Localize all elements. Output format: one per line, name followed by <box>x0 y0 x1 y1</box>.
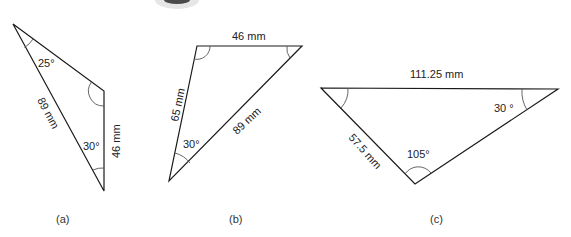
angle-label-a-30: 30° <box>83 140 100 152</box>
angle-arc-c-left <box>341 88 348 108</box>
angle-label-c-30: 30 ° <box>494 102 514 114</box>
decorative-circle-icon <box>155 0 199 9</box>
angle-label-b-30: 30° <box>183 138 200 150</box>
angle-arc-c-bottom <box>405 167 431 174</box>
triangle-b-outline <box>169 46 302 181</box>
angle-arc-a-top <box>25 39 34 48</box>
side-label-a-89: 89 mm <box>35 95 61 130</box>
side-label-c-57-5: 57.5 mm <box>347 131 385 171</box>
side-label-b-46: 46 mm <box>232 30 266 42</box>
angle-arc-b-top-right <box>287 46 290 58</box>
caption-c: (c) <box>430 213 443 225</box>
triangle-a-outline <box>13 24 104 191</box>
side-label-a-46: 46 mm <box>110 124 122 158</box>
triangle-a: 25° 30° 89 mm 46 mm (a) <box>13 24 122 225</box>
triangle-b: 46 mm 65 mm 89 mm 30° (b) <box>168 30 302 225</box>
caption-b: (b) <box>229 213 242 225</box>
triangles-diagram: 25° 30° 89 mm 46 mm (a) 46 mm 65 mm 89 m… <box>0 0 571 237</box>
caption-a: (a) <box>56 213 69 225</box>
angle-label-a-25: 25° <box>38 57 55 69</box>
side-label-b-89: 89 mm <box>230 105 263 137</box>
angle-arc-c-right <box>522 89 527 110</box>
angle-label-c-105: 105° <box>407 148 430 160</box>
side-label-c-111-25: 111.25 mm <box>410 68 463 80</box>
angle-arc-a-bottom <box>93 168 104 170</box>
triangle-c: 111.25 mm 57.5 mm 30 ° 105° (c) <box>321 68 558 225</box>
side-label-b-65: 65 mm <box>168 87 187 122</box>
